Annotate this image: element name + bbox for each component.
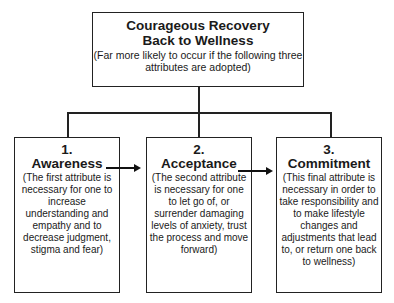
root-subtitle: (Far more likely to occur if the followi… <box>93 49 303 73</box>
step-description: (The second attribute is necessary for o… <box>147 172 251 256</box>
root-node-courageous-recovery: Courageous Recovery Back to Wellness (Fa… <box>92 12 304 87</box>
step-title: Acceptance <box>147 157 251 171</box>
step-title: Awareness <box>15 157 119 171</box>
step-number: 1. <box>15 143 119 157</box>
root-title-line1: Courageous Recovery <box>93 18 303 33</box>
connector-to-awareness <box>67 112 69 137</box>
step-description: (This final attribute is necessary in or… <box>277 172 381 268</box>
step-node-awareness: 1. Awareness (The first attribute is nec… <box>14 137 120 293</box>
arrow-right-icon <box>106 167 136 169</box>
root-title-line2: Back to Wellness <box>93 33 303 48</box>
connector-to-acceptance <box>198 112 200 137</box>
step-node-commitment: 3. Commitment (This final attribute is n… <box>276 137 382 293</box>
step-node-acceptance: 2. Acceptance (The second attribute is n… <box>146 137 252 293</box>
connector-to-commitment <box>330 112 332 137</box>
connector-root-down <box>198 87 200 113</box>
arrow-right-icon <box>238 170 268 172</box>
step-number: 2. <box>147 143 251 157</box>
step-number: 3. <box>277 143 381 157</box>
step-description: (The first attribute is necessary for on… <box>15 172 119 256</box>
step-title: Commitment <box>277 157 381 171</box>
